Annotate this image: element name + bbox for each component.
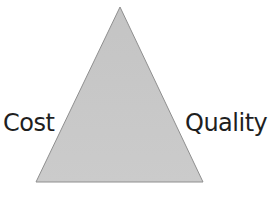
cost-label: Cost xyxy=(3,111,54,135)
quality-label: Quality xyxy=(185,111,267,135)
triangle-shape xyxy=(0,0,273,200)
